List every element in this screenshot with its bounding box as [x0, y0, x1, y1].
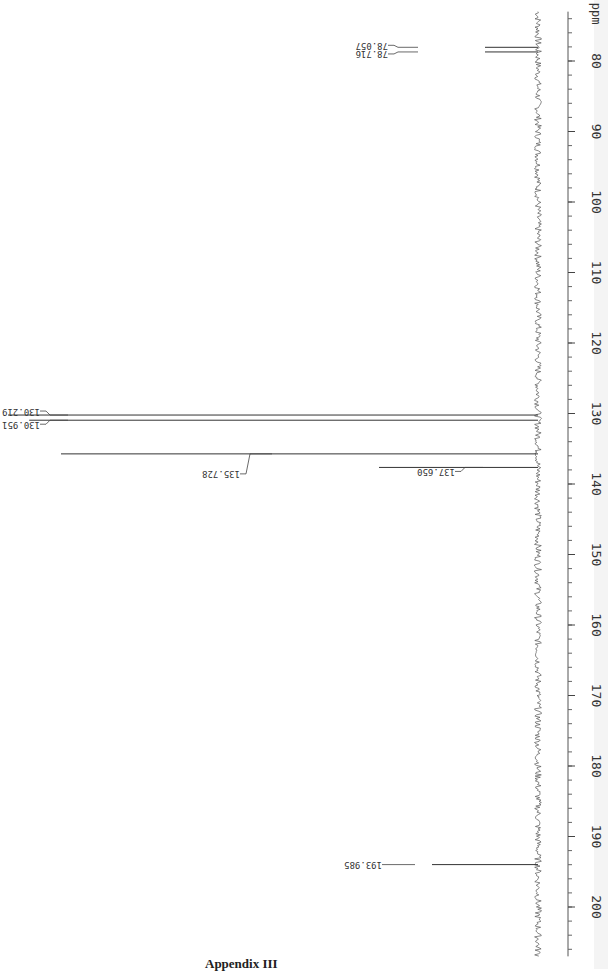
peak-label-leader [40, 420, 68, 424]
axis-tick-label: 180 [589, 754, 604, 777]
peak-label-leader [40, 411, 68, 415]
axis-tick-label: 120 [589, 331, 604, 354]
figure-caption: Appendix III [205, 956, 278, 972]
peak-label-leader [240, 454, 272, 474]
spectrum-baseline [535, 12, 542, 957]
axis-tick-label: 130 [589, 402, 604, 425]
peak-label-leader [455, 467, 483, 471]
axis-tick-label: 170 [589, 684, 604, 707]
peak-label-leader [388, 52, 418, 54]
peak-label: 130.219 [2, 407, 40, 417]
axis-tick-label: 200 [589, 895, 604, 918]
peak-label: 135.728 [202, 469, 240, 479]
axis-tick-label: 90 [589, 124, 604, 140]
axis-tick-label: 110 [589, 261, 604, 284]
peak-label: 130.951 [2, 420, 40, 430]
peak-label: 193.985 [344, 860, 382, 870]
peak-label-leader [388, 45, 418, 47]
axis-tick-label: 80 [589, 53, 604, 69]
axis-tick-label: 100 [589, 190, 604, 213]
peak-label: 78.716 [355, 49, 388, 59]
axis-tick-label: 190 [589, 825, 604, 848]
axis-tick-label: 160 [589, 613, 604, 636]
axis-tick-label: 150 [589, 543, 604, 566]
peak-label: 78.057 [355, 41, 388, 51]
axis-tick-label: 140 [589, 472, 604, 495]
peak-label: 137.650 [417, 467, 455, 477]
axis-unit-label: ppm [589, 3, 603, 25]
